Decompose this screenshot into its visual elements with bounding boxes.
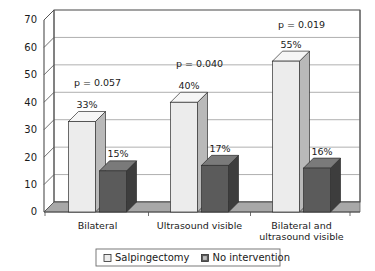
axis-depth-tick: [44, 65, 54, 75]
y-tick-label: 10: [24, 179, 37, 190]
p-value-annotation: p = 0.019: [278, 19, 325, 30]
bar-value-label: 16%: [311, 146, 332, 157]
y-tick-label: 50: [24, 69, 37, 80]
y-tick-label: 20: [24, 152, 37, 163]
chart-canvas: 01020304050607033%15%40%17%55%16%p = 0.0…: [0, 0, 375, 271]
legend-swatch-inner: [203, 256, 207, 260]
y-tick-label: 70: [24, 14, 37, 25]
bar-no-intervention: [304, 158, 341, 212]
axis-depth-tick: [44, 92, 54, 102]
y-tick-label: 60: [24, 42, 37, 53]
legend-swatch-salpingectomy: [104, 255, 111, 262]
legend-label: No intervention: [212, 252, 290, 263]
bar-value-label: 33%: [76, 99, 97, 110]
category-label: Bilateral and: [271, 220, 331, 231]
bar-value-label: 15%: [107, 148, 128, 159]
bar-front-face: [202, 165, 229, 212]
legend-label: Salpingectomy: [115, 252, 189, 263]
axis-depth-tick: [44, 147, 54, 157]
bar-value-label: 40%: [178, 80, 199, 91]
p-value-annotation: p = 0.057: [74, 77, 121, 88]
bar-front-face: [69, 121, 96, 212]
category-label: Ultrasound visible: [157, 220, 242, 231]
axis-depth-tick: [44, 37, 54, 47]
axis-depth-tick: [44, 175, 54, 185]
y-tick-label: 40: [24, 97, 37, 108]
bar-chart: 01020304050607033%15%40%17%55%16%p = 0.0…: [0, 0, 375, 271]
y-tick-label: 0: [31, 206, 37, 217]
bar-value-label: 55%: [280, 39, 301, 50]
category-label: ultrasound visible: [259, 231, 343, 242]
y-tick-label: 30: [24, 124, 37, 135]
category-label: Bilateral: [78, 220, 118, 231]
p-value-annotation: p = 0.040: [176, 58, 223, 69]
bar-no-intervention: [100, 161, 137, 212]
bar-value-label: 17%: [209, 143, 230, 154]
bar-front-face: [304, 168, 331, 212]
bar-front-face: [171, 102, 198, 212]
bar-front-face: [273, 61, 300, 212]
axis-depth-tick: [44, 120, 54, 130]
y-axis-top-connector: [44, 10, 54, 20]
bar-no-intervention: [202, 155, 239, 212]
bar-front-face: [100, 171, 127, 212]
